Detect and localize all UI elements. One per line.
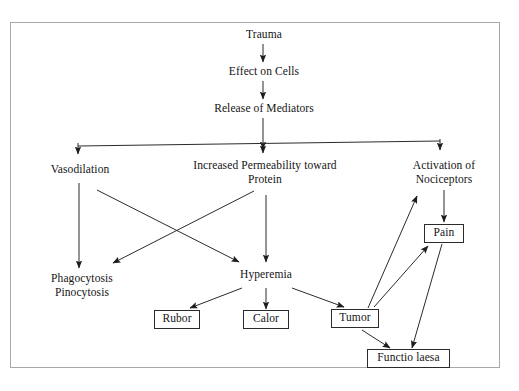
node-activation-of-nociceptors[interactable]: Activation of Nociceptors	[390, 159, 498, 186]
node-phagocytosis-pinocytosis[interactable]: Phagocytosis Pinocytosis	[29, 272, 135, 299]
diagram-canvas: Trauma Effect on Cells Release of Mediat…	[0, 0, 519, 391]
node-calor[interactable]: Calor	[243, 310, 289, 329]
node-pain[interactable]: Pain	[424, 224, 464, 243]
node-tumor[interactable]: Tumor	[331, 309, 379, 328]
node-effect-on-cells[interactable]: Effect on Cells	[208, 65, 320, 79]
node-vasodilation[interactable]: Vasodilation	[34, 163, 126, 177]
node-trauma[interactable]: Trauma	[225, 28, 303, 42]
node-release-of-mediators[interactable]: Release of Mediators	[196, 102, 332, 116]
node-hyperemia[interactable]: Hyperemia	[226, 268, 306, 282]
node-rubor[interactable]: Rubor	[154, 310, 200, 329]
node-increased-permeability[interactable]: Increased Permeability toward Protein	[182, 159, 348, 186]
node-functio-laesa[interactable]: Functio laesa	[367, 349, 450, 368]
